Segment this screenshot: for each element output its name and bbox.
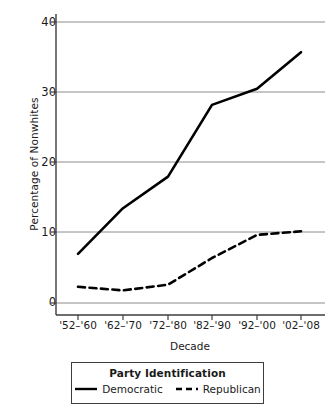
legend-entries: Democratic Republican <box>72 383 263 395</box>
legend-label-democratic: Democratic <box>102 383 163 395</box>
legend-entry-republican: Republican <box>175 383 261 395</box>
y-tick-marks <box>51 22 56 303</box>
legend-entry-democratic: Democratic <box>74 383 163 395</box>
legend-title: Party Identification <box>72 367 263 379</box>
legend-label-republican: Republican <box>203 383 261 395</box>
chart-figure: Percentage of Nonwhites 40 30 20 10 0 <box>0 0 334 412</box>
legend: Party Identification Democratic Republic… <box>71 362 264 404</box>
x-tick-label-5: '02–'08 <box>273 320 329 331</box>
series-line-democratic <box>78 52 301 254</box>
dashed-line-icon <box>175 384 199 394</box>
solid-line-icon <box>74 384 98 394</box>
x-axis-label: Decade <box>56 340 324 352</box>
series-line-republican <box>78 231 301 290</box>
